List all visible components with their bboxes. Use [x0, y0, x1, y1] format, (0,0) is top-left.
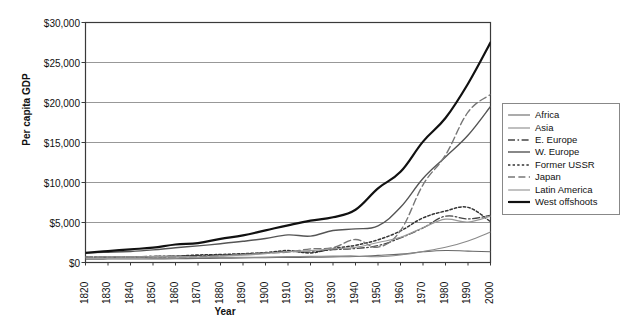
series-line-former-ussr [86, 207, 491, 257]
legend-label: E. Europe [535, 135, 577, 145]
x-tick-label: 1830 [101, 282, 112, 304]
series-line-w-europe [86, 107, 491, 253]
legend-label: Latin America [535, 185, 593, 195]
x-tick-label: 1910 [281, 282, 292, 304]
x-tick-label: 1840 [124, 282, 135, 304]
legend-label: West offshoots [535, 197, 598, 207]
x-tick-label: 1860 [169, 282, 180, 304]
x-tick-label: 1900 [259, 282, 270, 304]
x-tick-label: 1890 [236, 282, 247, 304]
legend-item[interactable]: Asia [508, 121, 615, 133]
legend-label: Asia [535, 123, 553, 133]
legend-label: Former USSR [535, 160, 595, 170]
series-line-japan [86, 95, 491, 258]
chart-figure: Per capita GDP $0$5,000$10,000$15,000$20… [0, 0, 627, 330]
legend-item[interactable]: W. Europe [508, 146, 615, 158]
legend-item[interactable]: Africa [508, 109, 615, 121]
series-line-asia [86, 232, 491, 258]
x-axis-title: Year [185, 306, 265, 317]
x-tick-label: 1930 [326, 282, 337, 304]
series-line-west-offshoots [86, 43, 491, 253]
x-tick-label: 1990 [461, 282, 472, 304]
x-tick-label: 1960 [394, 282, 405, 304]
x-tick-label: 1880 [214, 282, 225, 304]
legend-item[interactable]: Latin America [508, 183, 615, 195]
x-tick-label: 1820 [79, 282, 90, 304]
x-tick-label: 1850 [146, 282, 157, 304]
legend-item[interactable]: E. Europe [508, 134, 615, 146]
legend-item[interactable]: Japan [508, 171, 615, 183]
legend-label: Japan [535, 172, 561, 182]
x-tick-label: 1870 [191, 282, 202, 304]
legend-label: W. Europe [535, 147, 579, 157]
x-tick-label: 1920 [304, 282, 315, 304]
legend-item[interactable]: West offshoots [508, 196, 615, 208]
x-tick-label: 1970 [416, 282, 427, 304]
x-tick-label: 1940 [349, 282, 360, 304]
chart-legend: AfricaAsiaE. EuropeW. EuropeFormer USSRJ… [502, 103, 620, 215]
legend-label: Africa [535, 110, 559, 120]
legend-item[interactable]: Former USSR [508, 159, 615, 171]
x-tick-label: 1950 [371, 282, 382, 304]
x-tick-label: 1980 [439, 282, 450, 304]
x-tick-label: 2000 [484, 282, 495, 304]
series-group [86, 43, 491, 260]
